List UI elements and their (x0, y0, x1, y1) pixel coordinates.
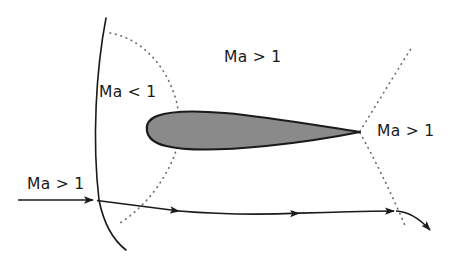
trailing-shock-lower (360, 133, 406, 228)
sonic-line-lower (117, 147, 177, 225)
supersonic-airfoil-diagram: Ma > 1 Ma < 1 Ma > 1 Ma > 1 (0, 0, 462, 269)
label-trailing-region-mach: Ma > 1 (377, 124, 434, 140)
sonic-line-upper (110, 33, 179, 114)
airfoil-body (147, 112, 360, 150)
streamline-approach-trailing-shock-segment (299, 211, 394, 213)
label-freestream-mach: Ma > 1 (27, 177, 84, 193)
bow-shock-curve (95, 18, 126, 250)
trailing-shock-upper (360, 47, 412, 131)
label-upper-region-mach: Ma > 1 (224, 50, 281, 66)
streamline-midfield-segment (97, 201, 179, 212)
streamline-deflected-downstream-segment (396, 211, 430, 230)
streamline-over-airfoil-segment (179, 211, 299, 214)
label-subsonic-pocket-mach: Ma < 1 (99, 85, 156, 101)
